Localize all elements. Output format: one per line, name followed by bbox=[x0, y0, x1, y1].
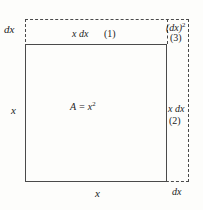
label-dx-left: dx bbox=[4, 24, 14, 35]
label-dx-bottom: dx bbox=[172, 187, 181, 197]
label-area: A = x2 bbox=[70, 101, 96, 112]
label-x-bottom: x bbox=[95, 188, 100, 199]
figure-canvas: dx x dx (1) (dx)2 (3) x A = x2 x dx (2) … bbox=[0, 0, 203, 210]
label-region-1: (1) bbox=[104, 29, 116, 39]
main-square bbox=[25, 44, 167, 182]
label-x-left: x bbox=[11, 105, 16, 116]
label-x-dx-top: x dx bbox=[72, 29, 88, 39]
label-region-2: (2) bbox=[169, 116, 181, 126]
label-area-base: A = x bbox=[70, 101, 92, 112]
label-region-3: (3) bbox=[170, 33, 182, 43]
label-x-dx-right: x dx bbox=[168, 104, 184, 114]
label-dx-squared-exponent: 2 bbox=[182, 21, 185, 28]
label-area-exponent: 2 bbox=[92, 100, 95, 107]
